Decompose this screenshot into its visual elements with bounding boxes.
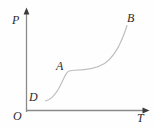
pt-diagram-figure: P T O D A B [0, 0, 154, 129]
origin-label: O [13, 110, 22, 122]
x-axis-label: T [137, 112, 144, 124]
curve-point-label-a: A [56, 60, 63, 72]
x-axis [26, 108, 150, 114]
y-axis-arrowhead-icon [24, 8, 30, 15]
y-axis-label: P [12, 14, 19, 26]
curve-point-label-b: B [127, 12, 134, 24]
curve-point-label-d: D [29, 91, 38, 103]
